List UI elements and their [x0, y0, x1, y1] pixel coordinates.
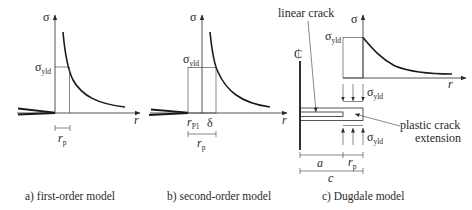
- centerline-label: ₵: [294, 47, 302, 61]
- linear-crack-label: linear crack: [278, 6, 334, 20]
- plastic-extension-label-line2: extension: [415, 131, 461, 145]
- plastic-zone-label: rp: [197, 136, 206, 152]
- upper-closing-stress-label: σyld: [367, 85, 383, 101]
- plastic-extension-label-line1: plastic crack: [400, 118, 460, 132]
- crack-upper-flank: [151, 110, 188, 113]
- rp-label: rp: [348, 155, 357, 171]
- linear-crack-leader: [308, 21, 316, 112]
- panel-second-order-model: σ r σyld rP1 δ rp b) second-order model: [149, 10, 287, 203]
- closing-stress-arrows-top: [343, 84, 363, 102]
- caption-second-order: b) second-order model: [167, 190, 271, 203]
- r-axis-label: r: [448, 77, 453, 91]
- r-axis-label: r: [282, 113, 287, 127]
- closing-stress-arrows-bottom: [343, 126, 363, 146]
- plastic-extension-leader: [355, 114, 400, 126]
- yield-stress-label: σyld: [35, 60, 51, 76]
- caption-first-order: a) first-order model: [25, 190, 115, 203]
- panel-dugdale-model: ₵ σ r σyld σyld σyld linear crack: [278, 6, 466, 203]
- yield-plateau-rect: [343, 38, 363, 79]
- sigma-axis-label: σ: [190, 10, 197, 24]
- dimension-a-rp: [300, 152, 363, 158]
- lower-closing-stress-label: σyld: [367, 130, 383, 146]
- plastic-zone-label: rp: [58, 131, 67, 147]
- plastic-zone-dimension: [188, 131, 216, 137]
- yield-stress-label: σyld: [325, 29, 341, 45]
- c-label: c: [328, 171, 334, 185]
- sigma-axis-label: σ: [351, 12, 358, 26]
- panel-first-order-model: σ r σyld rp a) first-order model: [17, 10, 140, 203]
- delta-label: δ: [207, 116, 213, 130]
- sigma-axis-label: σ: [43, 10, 50, 24]
- stress-decay-curve: [363, 38, 452, 75]
- yield-stress-label: σyld: [183, 52, 199, 68]
- caption-dugdale: c) Dugdale model: [322, 190, 404, 203]
- stress-singularity-curve: [63, 32, 125, 107]
- stress-singularity-curve: [210, 32, 270, 107]
- linear-crack: [300, 112, 343, 117]
- rp1-label: rP1: [187, 115, 200, 131]
- crack-tip-plastic-zone-diagram: σ r σyld rp a) first-order model σ r σyl…: [0, 0, 472, 210]
- crack-with-plastic-extension: [300, 108, 363, 121]
- crack-upper-flank: [18, 109, 55, 113]
- r-axis-label: r: [134, 113, 139, 127]
- a-label: a: [317, 156, 323, 170]
